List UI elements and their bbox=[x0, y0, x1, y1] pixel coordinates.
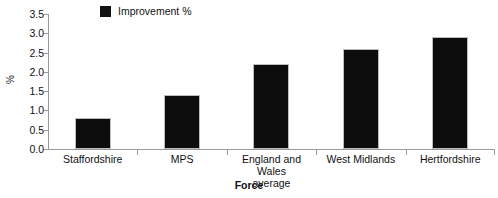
x-tick-label-mps: MPS bbox=[137, 153, 226, 165]
bar-slot bbox=[48, 14, 137, 149]
x-tick-label-west-midlands: West Midlands bbox=[316, 153, 405, 165]
x-tick-label-line: Hertfordshire bbox=[406, 153, 495, 165]
bar-west-midlands[interactable] bbox=[343, 49, 379, 149]
bar-chart-figure: Improvement % % 0.0 0.5 1.0 1.5 2.0 2.5 … bbox=[0, 0, 498, 198]
y-tick-label: 1.0 bbox=[18, 105, 44, 115]
x-tick-label-line: Staffordshire bbox=[48, 153, 137, 165]
y-tick-label: 2.0 bbox=[18, 67, 44, 77]
bar-mps[interactable] bbox=[164, 95, 200, 149]
x-tick-label-line: England and Wales bbox=[227, 153, 316, 177]
plot-area bbox=[48, 14, 495, 149]
bar-staffordshire[interactable] bbox=[75, 118, 111, 149]
y-tick-label: 2.5 bbox=[18, 48, 44, 58]
bar-england-and-wales-average[interactable] bbox=[253, 64, 289, 149]
bar-slot bbox=[227, 14, 316, 149]
y-tick-label: 3.0 bbox=[18, 28, 44, 38]
y-tick-label: 1.5 bbox=[18, 86, 44, 96]
y-axis-tick-labels: 0.0 0.5 1.0 1.5 2.0 2.5 3.0 3.5 bbox=[18, 14, 44, 149]
y-axis-title: % bbox=[5, 75, 16, 84]
bar-slot bbox=[406, 14, 495, 149]
x-axis-tick-labels: Staffordshire MPS England and Wales aver… bbox=[48, 153, 495, 179]
x-tick-label-line: MPS bbox=[137, 153, 226, 165]
x-tick-label-hertfordshire: Hertfordshire bbox=[406, 153, 495, 165]
x-tick-label-staffordshire: Staffordshire bbox=[48, 153, 137, 165]
bar-slot bbox=[137, 14, 226, 149]
bar-slot bbox=[316, 14, 405, 149]
bar-hertfordshire[interactable] bbox=[432, 37, 468, 149]
y-tick-mark bbox=[44, 149, 48, 150]
x-axis-line bbox=[48, 149, 495, 150]
x-axis-title: Force bbox=[0, 179, 498, 191]
y-tick-label: 0.5 bbox=[18, 125, 44, 135]
x-tick-label-line: West Midlands bbox=[316, 153, 405, 165]
y-tick-label: 0.0 bbox=[18, 144, 44, 154]
bar-group bbox=[48, 14, 495, 149]
y-tick-label: 3.5 bbox=[18, 9, 44, 19]
